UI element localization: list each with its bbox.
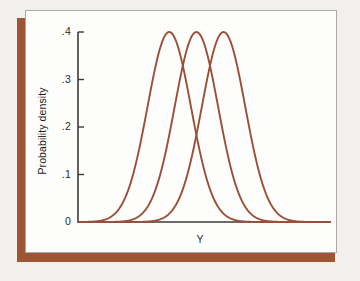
y-axis-tick-label: .3 [49,73,71,85]
figure-plate [25,10,337,253]
y-axis-tick-label: .2 [49,120,71,132]
x-axis-title: Y [180,233,220,245]
accent-bar-bottom [17,252,335,262]
y-axis-tick-label: .4 [49,25,71,37]
y-axis-title: Probability density [36,56,48,206]
y-axis-tick-label: 0 [49,215,71,227]
y-axis-tick-label: .1 [49,168,71,180]
figure-root: 0.1.2.3.4 Probability density Y [0,0,360,281]
